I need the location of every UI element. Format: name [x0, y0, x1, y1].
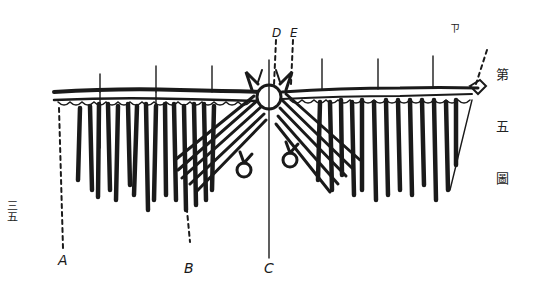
caption-char-1: 第	[496, 68, 509, 81]
label-b: B	[184, 260, 194, 276]
right-tassels	[318, 100, 472, 200]
page-number: 三五	[6, 200, 17, 222]
fringe-ornament-drawing	[0, 0, 538, 297]
label-d: D	[272, 26, 281, 40]
caption-char-2: 五	[496, 120, 509, 133]
corner-mark: ㄗ	[450, 24, 460, 34]
label-e: E	[290, 26, 298, 40]
caption-char-3: 圖	[496, 172, 509, 185]
loops	[237, 142, 298, 177]
left-diagonal-bundle	[175, 96, 266, 192]
label-a: A	[58, 252, 68, 268]
label-c: C	[264, 260, 274, 276]
